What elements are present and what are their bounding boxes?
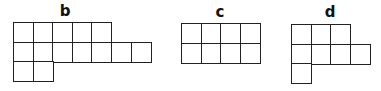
- figure-label: c: [216, 5, 225, 20]
- figure-label: b: [60, 4, 71, 19]
- grid-square: [72, 22, 93, 43]
- grid-square: [91, 22, 112, 43]
- grid-square: [131, 42, 152, 63]
- grid-square: [72, 42, 93, 63]
- grid-square: [13, 42, 34, 63]
- grid-square: [201, 43, 222, 64]
- grid-square: [33, 61, 54, 82]
- grid-square: [33, 22, 54, 43]
- grid-square: [330, 44, 351, 65]
- grid-square: [13, 22, 34, 43]
- grid-square: [240, 23, 261, 44]
- grid-square: [350, 44, 371, 65]
- grid-square: [91, 42, 112, 63]
- grid-square: [13, 61, 34, 82]
- grid-square: [330, 24, 351, 45]
- grid-square: [291, 63, 312, 84]
- grid-square: [33, 42, 54, 63]
- grid-square: [181, 43, 202, 64]
- grid-square: [291, 24, 312, 45]
- grid-square: [52, 42, 73, 63]
- grid-square: [181, 23, 202, 44]
- grid-square: [111, 42, 132, 63]
- grid-square: [220, 43, 241, 64]
- grid-square: [220, 23, 241, 44]
- grid-square: [240, 43, 261, 64]
- grid-square: [291, 44, 312, 65]
- grid-square: [52, 22, 73, 43]
- figure-label: d: [325, 5, 336, 20]
- grid-square: [201, 23, 222, 44]
- grid-square: [311, 24, 332, 45]
- grid-square: [311, 44, 332, 65]
